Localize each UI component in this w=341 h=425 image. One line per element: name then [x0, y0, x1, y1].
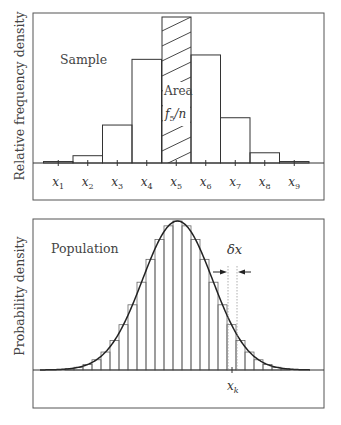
top-y-axis-label: Relative frequency density: [12, 10, 27, 180]
x-tick-label: x8: [259, 175, 271, 191]
density-bar: [182, 226, 191, 370]
figure: Relative frequency density Sample Area f…: [0, 0, 341, 425]
delta-x-label: δx: [227, 242, 243, 257]
sample-histogram-panel: Relative frequency density Sample Area f…: [12, 10, 324, 226]
histogram-bar: [221, 118, 251, 163]
x-tick-label: x4: [141, 175, 153, 191]
histogram-bar: [132, 59, 162, 163]
density-bar: [173, 221, 182, 370]
sample-label: Sample: [60, 52, 107, 67]
density-bar: [200, 259, 209, 370]
x-tick-label: x6: [200, 175, 212, 191]
x-tick-label: x2: [82, 175, 94, 191]
density-bar: [146, 259, 155, 370]
bottom-y-axis-label: Probability density: [12, 235, 27, 355]
density-bar: [155, 239, 164, 370]
population-label: Population: [51, 241, 119, 256]
xk-label: xk: [227, 379, 239, 395]
density-bar: [209, 282, 218, 370]
area-formula: f5/n: [164, 107, 186, 123]
x-tick-label: x1: [52, 175, 64, 191]
histogram-bar: [103, 125, 133, 163]
left-pointing-arrow-icon: [238, 270, 251, 275]
density-bar: [191, 239, 200, 370]
x-tick-label: x5: [170, 175, 182, 191]
x-tick-label: x3: [111, 175, 123, 191]
histogram-bar: [191, 55, 221, 163]
x-tick-label: x7: [229, 175, 241, 191]
density-bar: [218, 305, 227, 370]
density-bar: [137, 282, 146, 370]
x-tick-label: x9: [288, 175, 300, 191]
area-label: Area: [163, 84, 193, 98]
density-bar: [164, 226, 173, 370]
right-pointing-arrow-icon: [213, 270, 227, 275]
top-x-ticks: x1x2x3x4x5x6x7x8x9: [52, 160, 300, 191]
population-density-panel: Probability density Population δx xk: [12, 219, 324, 408]
density-bar: [128, 305, 137, 370]
